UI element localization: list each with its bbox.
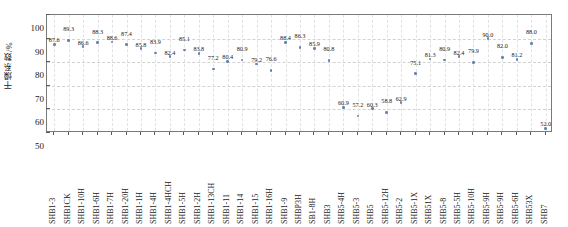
data-point-label: 89.3 bbox=[63, 26, 74, 32]
y-axis-tick-mark bbox=[46, 108, 50, 109]
data-point-label: 82.4 bbox=[164, 49, 175, 55]
y-axis-tick-mark bbox=[46, 85, 50, 86]
x-axis-tick-mark bbox=[415, 132, 416, 135]
data-point-label: 87.6 bbox=[49, 37, 60, 43]
gridline-vertical bbox=[83, 15, 84, 131]
data-point bbox=[516, 58, 519, 61]
data-point-label: 88.6 bbox=[107, 35, 118, 41]
data-point-label: 85.1 bbox=[179, 36, 190, 42]
x-axis-tick-mark bbox=[371, 132, 372, 135]
data-point-label: 80.4 bbox=[222, 54, 233, 60]
x-axis-tick-label: SHB5-9H bbox=[497, 136, 505, 224]
data-point bbox=[154, 52, 157, 55]
x-axis-tick-mark bbox=[487, 132, 488, 135]
y-axis-tick-mark bbox=[46, 61, 50, 62]
x-axis-tick-label-text: SHB7 bbox=[541, 136, 549, 224]
x-axis-tick-label: SHB3 bbox=[324, 136, 332, 224]
x-axis-tick-mark bbox=[154, 132, 155, 135]
x-axis-tick-mark bbox=[501, 132, 502, 135]
x-axis-tick-mark bbox=[545, 132, 546, 135]
gridline-vertical bbox=[155, 15, 156, 131]
x-axis-tick-label: SHBP3H bbox=[295, 136, 303, 224]
x-axis-tick-label-text: SHB5-3 bbox=[353, 136, 361, 224]
x-axis-tick-mark bbox=[68, 132, 69, 135]
y-axis-tick-label: 50 bbox=[18, 142, 44, 151]
gridline-vertical bbox=[271, 15, 272, 131]
gridline-vertical bbox=[242, 15, 243, 131]
gridline-vertical bbox=[54, 15, 55, 131]
y-axis-tick-labels: 5060708090100 bbox=[14, 14, 44, 132]
x-axis-tick-label: SHB5-2 bbox=[396, 136, 404, 224]
y-axis-tick-label: 100 bbox=[18, 24, 44, 33]
data-point bbox=[313, 47, 316, 50]
x-axis-tick-mark bbox=[169, 132, 170, 135]
x-axis-tick-label: SHB5-8 bbox=[440, 136, 448, 224]
x-axis-tick-label-text: SHB1-14 bbox=[237, 136, 245, 224]
data-point-label: 83.8 bbox=[193, 46, 204, 52]
data-point bbox=[342, 106, 345, 109]
data-point-label: 80.8 bbox=[323, 46, 334, 52]
x-axis-tick-label-text: SHB5-1X bbox=[411, 136, 419, 224]
x-axis-tick-label-text: SHB1-4H bbox=[150, 136, 158, 224]
y-axis-tick-label: 60 bbox=[18, 118, 44, 127]
data-point bbox=[487, 37, 490, 40]
data-point bbox=[530, 42, 533, 45]
x-axis-tick-mark bbox=[140, 132, 141, 135]
x-axis-tick-mark bbox=[183, 132, 184, 135]
x-axis-tick-label-text: SHB1-5H bbox=[179, 136, 187, 224]
data-point-label: 77.2 bbox=[208, 55, 219, 61]
x-axis-tick-label: SHB5 bbox=[367, 136, 375, 224]
x-axis-tick-mark bbox=[458, 132, 459, 135]
x-axis-tick-label-text: SHB5-4H bbox=[338, 136, 346, 224]
data-point bbox=[544, 127, 547, 130]
data-point-label: 81.2 bbox=[511, 52, 522, 58]
gridline-horizontal bbox=[47, 109, 551, 110]
x-axis-tick-label: SHB1-4HCH bbox=[165, 136, 173, 224]
x-axis-tick-label-text: SHB5-10H bbox=[468, 136, 476, 224]
data-point bbox=[198, 52, 201, 55]
y-axis-tick-mark bbox=[46, 132, 50, 133]
x-axis-tick-label: SHB5-6H bbox=[512, 136, 520, 224]
x-axis-tick-mark bbox=[212, 132, 213, 135]
x-axis-tick-mark bbox=[53, 132, 54, 135]
x-axis-tick-mark bbox=[429, 132, 430, 135]
x-axis-tick-label-text: SHB1-20H bbox=[122, 136, 130, 224]
x-axis-tick-label: SHB1-16H bbox=[266, 136, 274, 224]
x-axis-tick-label: SHB5-12H bbox=[382, 136, 390, 224]
x-axis-tick-mark bbox=[400, 132, 401, 135]
x-axis-tick-label: SHB1-6H bbox=[93, 136, 101, 224]
x-axis-tick-label: SHB1-3 bbox=[49, 136, 57, 224]
x-axis-tick-label-text: SHB1CK bbox=[64, 136, 72, 224]
data-point bbox=[270, 69, 273, 72]
x-axis-tick-mark bbox=[516, 132, 517, 135]
gridline-vertical bbox=[170, 15, 171, 131]
x-axis-tick-label: SHB1-7H bbox=[107, 136, 115, 224]
x-axis-tick-mark bbox=[241, 132, 242, 135]
x-axis-tick-label-text: SHB5-6H bbox=[512, 136, 520, 224]
data-point bbox=[125, 43, 128, 46]
data-point bbox=[371, 107, 374, 110]
x-axis-tick-label: SHB5-1X bbox=[411, 136, 419, 224]
x-axis-tick-label: SHB1-9 bbox=[281, 136, 289, 224]
data-point-label: 57.2 bbox=[352, 102, 363, 108]
x-axis-tick-label: SHB1-11 bbox=[223, 136, 231, 224]
gridline-vertical bbox=[473, 15, 474, 131]
x-axis-tick-label: SHB1-13CH bbox=[208, 136, 216, 224]
x-axis-tick-label: SB1-8H bbox=[309, 136, 317, 224]
x-axis-tick-labels: SHB1-3SHB1CKSHB1-10HSHB1-6HSHB1-7HSHB1-2… bbox=[46, 132, 552, 227]
x-axis-tick-mark bbox=[386, 132, 387, 135]
x-axis-tick-mark bbox=[82, 132, 83, 135]
gridline-vertical bbox=[69, 15, 70, 131]
data-point-label: 86.6 bbox=[78, 39, 89, 45]
x-axis-tick-label: SHB1-10H bbox=[78, 136, 86, 224]
y-axis-tick-label: 80 bbox=[18, 71, 44, 80]
gridline-vertical bbox=[358, 15, 359, 131]
data-point-label: 85.8 bbox=[136, 41, 147, 47]
x-axis-tick-mark bbox=[111, 132, 112, 135]
x-axis-tick-label-text: SHB1-1H bbox=[136, 136, 144, 224]
data-point bbox=[140, 47, 143, 50]
data-point bbox=[414, 72, 417, 75]
x-axis-tick-mark bbox=[126, 132, 127, 135]
y-axis-tick-label: 70 bbox=[18, 94, 44, 103]
gridline-vertical bbox=[141, 15, 142, 131]
